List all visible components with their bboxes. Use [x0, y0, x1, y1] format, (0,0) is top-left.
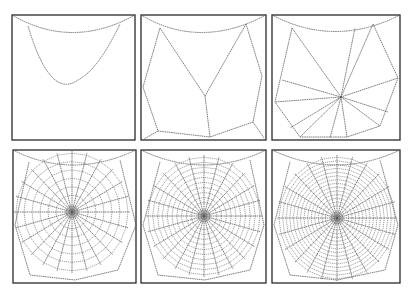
panel-3-radii	[272, 15, 400, 140]
panel-6-completed-web	[272, 150, 400, 283]
panel-2-frame	[141, 15, 266, 140]
spider-web-construction-figure	[0, 0, 413, 296]
panel-5-sticky-spiral	[141, 150, 266, 283]
panel-1-bridge	[12, 15, 135, 140]
panel-4-temporary-spiral	[13, 150, 136, 283]
